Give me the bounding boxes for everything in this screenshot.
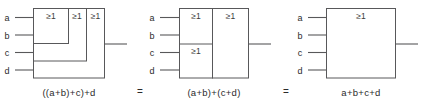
or-gate-ab-label: ≥1 bbox=[46, 11, 56, 21]
or-gate-abc-label: ≥1 bbox=[72, 11, 82, 21]
diagram-nested-or: ≥1 ≥1 ≥1 a b c d ((a+b)+c)+d bbox=[4, 9, 127, 99]
pin-label-a: a bbox=[4, 13, 9, 23]
diagram-paired-or: ≥1 ≥1 ≥1 a b c d (a+b)+(c+d) bbox=[149, 9, 271, 99]
pin-label-d: d bbox=[149, 66, 154, 76]
or-gate-ab-label: ≥1 bbox=[191, 11, 201, 21]
caption-paired-or: (a+b)+(c+d) bbox=[187, 87, 240, 98]
pin-label-a: a bbox=[149, 13, 154, 23]
pin-label-b: b bbox=[297, 31, 302, 41]
pin-label-b: b bbox=[4, 31, 9, 41]
or-gate-combine-label: ≥1 bbox=[226, 11, 236, 21]
pin-label-d: d bbox=[4, 66, 9, 76]
caption-nested-or: ((a+b)+c)+d bbox=[42, 87, 95, 98]
pin-label-a: a bbox=[297, 13, 302, 23]
equals-sign-1: = bbox=[137, 86, 143, 97]
or-gate-cd-label: ≥1 bbox=[191, 46, 201, 56]
or-gate-4input-label: ≥1 bbox=[356, 11, 366, 21]
pin-label-c: c bbox=[150, 48, 155, 58]
or-gate-abcd-label: ≥1 bbox=[91, 11, 101, 21]
pin-label-d: d bbox=[297, 66, 302, 76]
equals-sign-2: = bbox=[283, 86, 289, 97]
logic-equivalence-figure: ≥1 ≥1 ≥1 a b c d ((a+b)+c)+d = bbox=[0, 0, 422, 109]
pin-label-c: c bbox=[298, 48, 303, 58]
diagram-single-or: ≥1 a b c d a+b+c+d bbox=[297, 9, 418, 99]
caption-single-or: a+b+c+d bbox=[341, 87, 380, 98]
figure-canvas: ≥1 ≥1 ≥1 a b c d ((a+b)+c)+d = bbox=[0, 0, 422, 109]
pin-label-c: c bbox=[5, 48, 10, 58]
pin-label-b: b bbox=[149, 31, 154, 41]
